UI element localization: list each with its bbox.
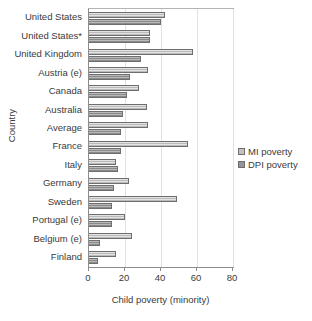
bar-mi-poverty <box>89 49 193 55</box>
bar-group <box>89 64 233 82</box>
bar-group <box>89 193 233 211</box>
y-axis-category-label: Australia <box>0 100 86 118</box>
x-tick-mark <box>160 267 161 271</box>
bar-group <box>89 101 233 119</box>
bar-mi-poverty <box>89 178 129 184</box>
bar-group <box>89 212 233 230</box>
bar-group <box>89 249 233 267</box>
legend-label: DPI poverty <box>248 159 298 170</box>
y-axis-category-label: United States <box>0 8 86 26</box>
bar-mi-poverty <box>89 104 147 110</box>
y-axis-category-labels: United StatesUnited States*United Kingdo… <box>0 8 86 266</box>
plot-area <box>88 8 234 268</box>
legend-swatch-dpi-icon <box>238 161 245 168</box>
y-axis-category-label: Italy <box>0 155 86 173</box>
bar-dpi-poverty <box>89 37 150 43</box>
legend-item-mi: MI poverty <box>238 146 298 157</box>
x-tick-mark <box>124 267 125 271</box>
x-tick-label: 60 <box>191 272 202 283</box>
bar-dpi-poverty <box>89 258 98 264</box>
bar-mi-poverty <box>89 141 188 147</box>
x-axis-ticks: 020406080 <box>88 267 233 272</box>
x-gridline <box>233 9 234 267</box>
x-tick-label: 0 <box>85 272 90 283</box>
bar-dpi-poverty <box>89 148 121 154</box>
bar-dpi-poverty <box>89 240 100 246</box>
bar-dpi-poverty <box>89 185 114 191</box>
bar-dpi-poverty <box>89 166 118 172</box>
bar-group <box>89 46 233 64</box>
x-tick-mark <box>88 267 89 271</box>
bar-dpi-poverty <box>89 203 112 209</box>
legend-item-dpi: DPI poverty <box>238 159 298 170</box>
y-axis-category-label: Average <box>0 119 86 137</box>
bar-group <box>89 120 233 138</box>
child-poverty-bar-chart: Country United StatesUnited States*Unite… <box>0 0 312 321</box>
x-tick-label: 20 <box>119 272 130 283</box>
y-axis-category-label: Canada <box>0 82 86 100</box>
chart-legend: MI povertyDPI poverty <box>238 146 298 170</box>
bar-mi-poverty <box>89 214 125 220</box>
bar-dpi-poverty <box>89 111 123 117</box>
bar-group <box>89 9 233 27</box>
bar-mi-poverty <box>89 122 148 128</box>
bar-dpi-poverty <box>89 74 130 80</box>
bar-mi-poverty <box>89 12 165 18</box>
y-axis-category-label: Sweden <box>0 192 86 210</box>
y-axis-category-label: United Kingdom <box>0 45 86 63</box>
bar-mi-poverty <box>89 196 177 202</box>
bar-mi-poverty <box>89 67 148 73</box>
bar-group <box>89 156 233 174</box>
bar-group <box>89 27 233 45</box>
y-axis-category-label: Portugal (e) <box>0 211 86 229</box>
x-axis-title: Child poverty (minority) <box>88 294 233 305</box>
x-tick-mark <box>196 267 197 271</box>
y-axis-category-label: Finland <box>0 247 86 265</box>
bar-dpi-poverty <box>89 129 121 135</box>
legend-swatch-mi-icon <box>238 148 245 155</box>
y-axis-category-label: United States* <box>0 26 86 44</box>
legend-label: MI poverty <box>248 146 292 157</box>
bar-mi-poverty <box>89 30 150 36</box>
bar-dpi-poverty <box>89 19 161 25</box>
x-tick-mark <box>232 267 233 271</box>
y-axis-category-label: France <box>0 137 86 155</box>
bar-mi-poverty <box>89 85 139 91</box>
bar-group <box>89 175 233 193</box>
bar-mi-poverty <box>89 251 116 257</box>
bar-dpi-poverty <box>89 56 141 62</box>
bar-dpi-poverty <box>89 92 127 98</box>
bar-dpi-poverty <box>89 221 112 227</box>
bar-mi-poverty <box>89 159 116 165</box>
y-axis-category-label: Germany <box>0 174 86 192</box>
x-tick-label: 80 <box>227 272 238 283</box>
x-tick-label: 40 <box>155 272 166 283</box>
y-axis-category-label: Austria (e) <box>0 63 86 81</box>
bar-mi-poverty <box>89 233 132 239</box>
bar-group <box>89 83 233 101</box>
y-axis-category-label: Belgium (e) <box>0 229 86 247</box>
bar-group <box>89 230 233 248</box>
bar-group <box>89 138 233 156</box>
